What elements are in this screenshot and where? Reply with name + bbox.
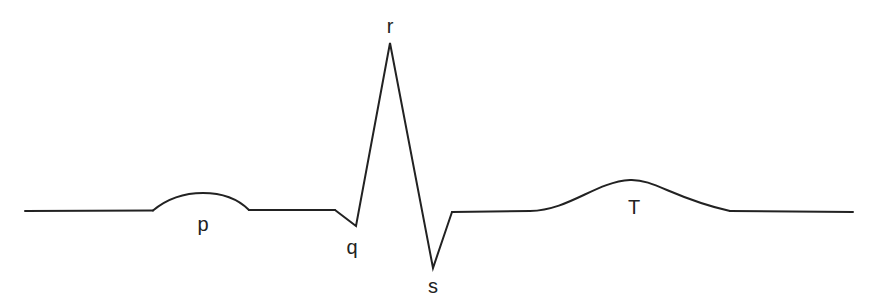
ecg-trace bbox=[25, 43, 853, 268]
baseline-start bbox=[25, 211, 153, 212]
label-p-wave: p bbox=[197, 213, 208, 235]
label-s-wave: s bbox=[428, 275, 438, 297]
baseline-end bbox=[730, 211, 853, 212]
label-r-wave: r bbox=[387, 15, 394, 37]
st-segment bbox=[452, 211, 530, 212]
ecg-diagram: p q r s T bbox=[0, 0, 878, 304]
label-q-wave: q bbox=[346, 236, 357, 258]
p-wave bbox=[153, 193, 249, 211]
qrs-complex bbox=[335, 43, 452, 268]
label-t-wave: T bbox=[628, 196, 640, 218]
